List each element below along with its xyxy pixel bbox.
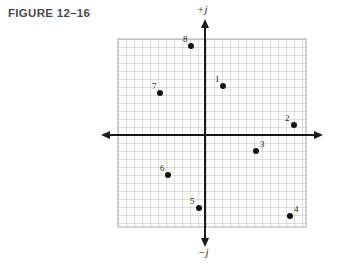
grid-field — [118, 39, 306, 227]
data-point-marker — [157, 90, 163, 96]
figure-panel: FIGURE 12–16 — [0, 0, 342, 268]
data-point-label: 5 — [190, 197, 195, 206]
data-point-label: 7 — [152, 82, 157, 91]
axis-label-negative-j: −j — [198, 246, 208, 258]
arrow-right-icon — [314, 131, 323, 139]
data-point-marker — [291, 122, 297, 128]
data-point-label: 8 — [183, 35, 188, 44]
axis-label-positive-j: +j — [197, 3, 207, 15]
complex-plane-plot: +j −j 12345678 — [0, 0, 342, 268]
data-point-label: 6 — [160, 164, 165, 173]
data-point-marker — [220, 83, 226, 89]
data-point-label: 2 — [285, 114, 290, 123]
data-point-marker — [253, 148, 259, 154]
data-point-label: 3 — [260, 140, 265, 149]
data-point-marker — [196, 205, 202, 211]
data-point-marker — [165, 172, 171, 178]
data-point-marker — [188, 43, 194, 49]
plot-canvas — [0, 0, 342, 268]
arrow-up-icon — [201, 19, 209, 28]
arrow-left-icon — [101, 131, 110, 139]
data-point-label: 1 — [215, 75, 220, 84]
data-point-label: 4 — [294, 205, 299, 214]
data-point-marker — [287, 213, 293, 219]
